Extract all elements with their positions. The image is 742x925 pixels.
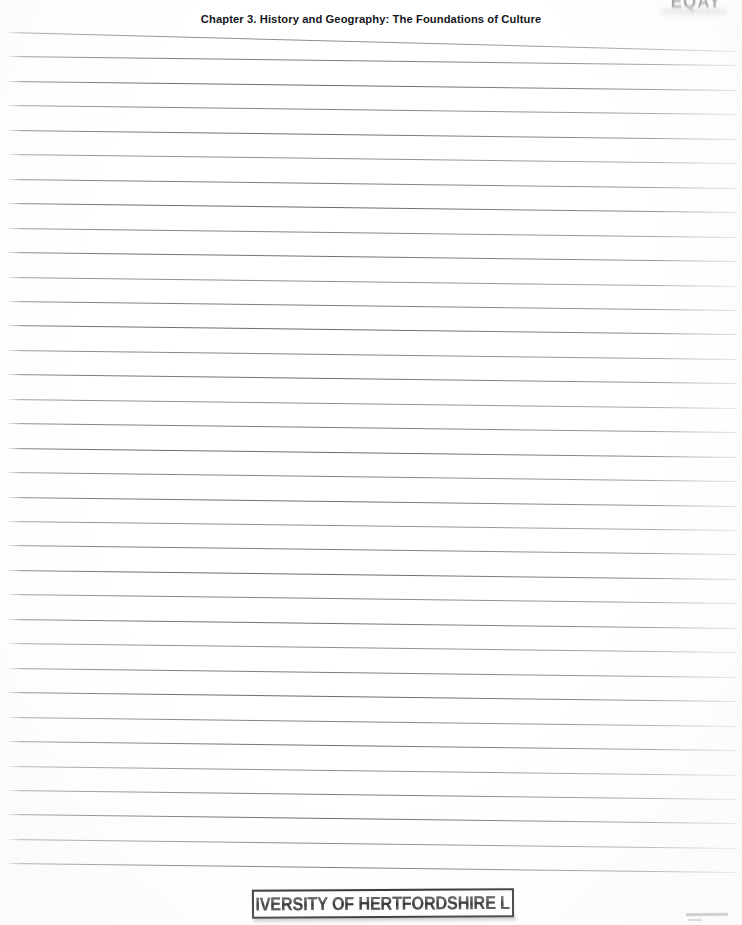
- ruled-line: [8, 570, 737, 580]
- ruled-line: [8, 594, 737, 604]
- ruled-line: [8, 105, 737, 115]
- ruled-line: [8, 643, 737, 653]
- ruled-line: [8, 32, 737, 52]
- ruled-line: [8, 301, 737, 311]
- ruled-line: [8, 154, 737, 164]
- ruled-line: [8, 717, 737, 727]
- ruled-lines: [0, 0, 742, 925]
- ruled-line: [8, 448, 737, 458]
- bottom-right-mark-secondary: [688, 919, 702, 921]
- library-stamp-text: UNIVERSITY OF HERTFORDSHIRE LRC: [256, 892, 510, 915]
- ruled-line: [8, 545, 737, 555]
- scanned-page: Chapter 3. History and Geography: The Fo…: [0, 0, 742, 925]
- ruled-line: [8, 81, 737, 91]
- library-stamp-inner: UNIVERSITY OF HERTFORDSHIRE LRC: [256, 891, 510, 916]
- library-stamp: UNIVERSITY OF HERTFORDSHIRE LRC: [252, 888, 514, 919]
- ruled-line: [8, 839, 737, 849]
- ruled-line: [8, 863, 737, 873]
- ruled-line: [8, 350, 737, 360]
- ruled-line: [8, 228, 737, 238]
- ruled-line: [8, 619, 737, 629]
- ruled-line: [8, 497, 737, 507]
- ruled-line: [8, 374, 737, 384]
- ruled-line: [8, 130, 737, 140]
- ruled-line: [8, 179, 737, 189]
- ruled-line: [8, 56, 737, 66]
- ruled-line: [8, 203, 737, 213]
- ruled-line: [8, 692, 737, 702]
- ruled-line: [8, 814, 737, 824]
- ruled-line: [8, 277, 737, 287]
- bottom-right-mark: [686, 913, 728, 916]
- ruled-line: [8, 325, 737, 335]
- ruled-line: [8, 252, 737, 262]
- ruled-line: [8, 521, 737, 531]
- ruled-line: [8, 423, 737, 433]
- ruled-line: [8, 668, 737, 678]
- ruled-line: [8, 790, 737, 800]
- ruled-line: [8, 472, 737, 482]
- ruled-line: [8, 399, 737, 409]
- ruled-line: [8, 741, 737, 751]
- ruled-line: [8, 766, 737, 776]
